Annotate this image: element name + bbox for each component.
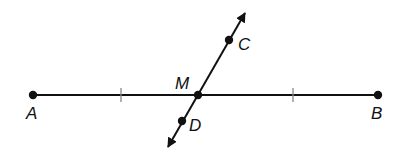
label-c: C xyxy=(238,35,251,54)
point-b xyxy=(374,91,382,99)
label-m: M xyxy=(175,74,190,93)
label-a: A xyxy=(25,104,37,123)
label-d: D xyxy=(189,116,201,135)
point-m xyxy=(194,91,202,99)
segment-bisector-diagram: A B M C D xyxy=(0,0,398,160)
label-b: B xyxy=(371,104,382,123)
point-c xyxy=(225,36,233,44)
point-d xyxy=(178,117,186,125)
point-a xyxy=(29,91,37,99)
